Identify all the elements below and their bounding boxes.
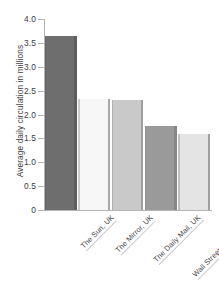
bar-edge-left (178, 134, 180, 210)
bar-fill (78, 99, 110, 210)
y-axis-tick-label-text: 2.0 (2, 111, 36, 119)
bar-edge-left (145, 126, 147, 210)
y-axis-tick-label: 4.0 (0, 15, 36, 23)
x-axis-line (44, 210, 212, 211)
x-axis-label: The Daily Mail, UK (151, 213, 203, 265)
bar (178, 134, 210, 210)
bar-fill (45, 36, 77, 210)
bar-edge-left (45, 36, 47, 210)
y-axis-tick (38, 210, 44, 211)
x-axis-label: The Sun, UK (78, 213, 116, 251)
y-axis-tick-label: 3.5 (0, 39, 36, 47)
y-axis-tick-label-text: 3.0 (2, 63, 36, 71)
y-axis-tick-label: 0 (0, 206, 36, 214)
bar-edge-right (141, 100, 144, 210)
bar-edge-right (208, 134, 211, 210)
bar-chart: Average daily circulation in millions 4.… (0, 0, 219, 293)
y-axis-tick-label-text: 1.0 (2, 158, 36, 166)
bar-fill (145, 126, 177, 210)
y-axis-tick-label-text: 1.5 (2, 134, 36, 142)
bar (112, 100, 144, 210)
bar (145, 126, 177, 210)
bar-edge-left (112, 100, 114, 210)
y-axis-tick-label-text: 0 (2, 206, 36, 214)
bar-edge-left (78, 99, 80, 210)
y-axis-tick-label-text: 0.5 (2, 182, 36, 190)
bar-edge-right (174, 126, 177, 210)
y-axis-tick-label: 0.5 (0, 182, 36, 190)
y-axis-tick-label-text: 3.5 (2, 39, 36, 47)
bar-fill (112, 100, 144, 210)
bar (78, 99, 110, 210)
plot-area (44, 19, 211, 210)
y-axis-tick-label: 2.0 (0, 111, 36, 119)
y-axis-tick-label: 2.5 (0, 87, 36, 95)
bar (45, 36, 77, 210)
bar-edge-right (108, 99, 111, 210)
y-axis-tick-label: 1.5 (0, 134, 36, 142)
y-axis-tick-label: 1.0 (0, 158, 36, 166)
y-axis-tick-label-text: 2.5 (2, 87, 36, 95)
bar-fill (178, 134, 210, 210)
x-axis-label: The Mirror, UK (114, 213, 156, 255)
x-axis-label: USA Today, USA (216, 213, 219, 260)
y-axis-tick-label: 3.0 (0, 63, 36, 71)
y-axis-tick-label-text: 4.0 (2, 15, 36, 23)
bar-edge-right (74, 36, 77, 210)
